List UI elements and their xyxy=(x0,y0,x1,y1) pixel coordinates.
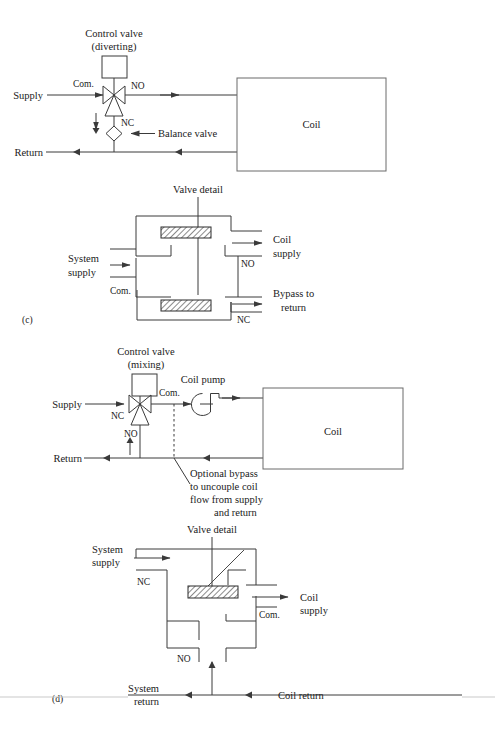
no-port-label: NO xyxy=(131,81,145,91)
bypass-flow-arrowhead xyxy=(93,128,100,134)
system-return-line1: System xyxy=(128,683,159,694)
optional-bypass-line1: Optional bypass xyxy=(190,468,258,479)
nc-label-detail-d: NC xyxy=(137,577,150,587)
coil-supply-label-line2-c: supply xyxy=(273,248,302,259)
valve-body-right-triangle xyxy=(114,86,125,104)
detail-d-lower-right-outer xyxy=(226,621,256,662)
detail-d-top-wall xyxy=(136,549,256,585)
coil-return-label: Coil return xyxy=(278,690,325,701)
control-valve-title-line2-d: (mixing) xyxy=(128,359,165,371)
return-label: Return xyxy=(14,147,43,158)
valve-plug-d xyxy=(188,586,238,598)
detail-d-lower-left-outer xyxy=(167,621,199,648)
com-label-detail-d: Com. xyxy=(259,610,280,620)
actuator-box-mixing xyxy=(132,374,157,396)
return-flow-arrow-left-d xyxy=(103,455,110,462)
valve-detail-title-d: Valve detail xyxy=(187,524,237,535)
mixing-valve-bottom-triangle xyxy=(131,404,149,425)
system-supply-label-line1-c: System xyxy=(68,253,99,264)
figure-canvas: Control valve (diverting) Supply Com. NO… xyxy=(0,0,495,730)
valve-body-left-triangle xyxy=(103,86,114,104)
optional-bypass-leader xyxy=(174,458,190,484)
nc-port-label: NC xyxy=(121,118,134,128)
no-port-label-d: NO xyxy=(124,429,138,439)
return-flow-arrow-from-coil xyxy=(175,149,182,156)
return-label-d: Return xyxy=(53,453,82,464)
bypass-label-line2-c: return xyxy=(281,302,307,313)
nc-label-detail-c: NC xyxy=(237,315,250,325)
panel-d-schematic: Control valve (mixing) Supply NC Com. NO… xyxy=(52,346,403,518)
no-label-detail-c: NO xyxy=(241,259,255,269)
return-flow-arrow-left xyxy=(73,149,80,156)
hvac-valve-piping-diagram: Control valve (diverting) Supply Com. NO… xyxy=(0,0,495,730)
balance-valve-symbol xyxy=(106,126,122,141)
coil-supply-label-line1-d: Coil xyxy=(300,592,318,603)
coil-supply-label-line1-c: Coil xyxy=(273,234,291,245)
panel-d-valve-detail: Valve detail System supply NC xyxy=(52,524,462,707)
supply-label: Supply xyxy=(13,90,44,101)
detail-d-lower-right-body xyxy=(226,600,256,621)
bottom-riser-arrowhead xyxy=(209,661,216,668)
panel-c-valve-detail: Valve detail System supply Com. Coil sup… xyxy=(22,184,314,326)
system-return-arrow xyxy=(185,692,192,699)
system-supply-label-line2-d: supply xyxy=(92,557,121,568)
valve-plug-lower-c xyxy=(161,300,211,311)
panel-d-letter: (d) xyxy=(52,694,63,705)
com-port-label-d: Com. xyxy=(159,388,180,398)
coil-return-arrow xyxy=(245,692,252,699)
system-supply-label-line2-c: supply xyxy=(68,267,97,278)
control-valve-title-line1: Control valve xyxy=(85,28,143,39)
panel-c-letter: (c) xyxy=(22,315,33,326)
actuator-box-diverting xyxy=(102,56,127,78)
mixing-valve-right-triangle xyxy=(140,395,151,413)
com-label-detail-c: Com. xyxy=(110,286,131,296)
supply-label-d: Supply xyxy=(52,399,83,410)
bypass-label-line1-c: Bypass to xyxy=(273,288,314,299)
valve-detail-title-c: Valve detail xyxy=(173,184,223,195)
control-valve-title-line1-d: Control valve xyxy=(117,346,175,357)
coil-pump-label: Coil pump xyxy=(181,374,226,385)
coil-supply-label-line2-d: supply xyxy=(300,605,329,616)
detail-d-upper-right-inlet xyxy=(228,570,246,585)
detail-upper-right-outlet-top xyxy=(231,216,262,231)
detail-lower-left-inlet xyxy=(136,287,171,297)
coil-label: Coil xyxy=(302,119,320,130)
system-return-line2: return xyxy=(134,696,160,707)
nc-port-label-d: NC xyxy=(111,411,124,421)
mixing-valve-left-triangle xyxy=(129,395,140,413)
balance-valve-label: Balance valve xyxy=(158,128,218,139)
detail-d-lower-left-body xyxy=(167,600,199,640)
coil-label-d: Coil xyxy=(324,426,342,437)
optional-bypass-line2: to uncouple coil xyxy=(190,481,258,492)
control-valve-title-line2: (diverting) xyxy=(92,41,137,53)
detail-upper-right-outlet-bottom xyxy=(225,245,262,256)
optional-bypass-line4: and return xyxy=(214,507,258,518)
system-supply-label-line1-d: System xyxy=(92,544,123,555)
valve-plug-upper-c xyxy=(161,227,211,238)
panel-c-schematic: Control valve (diverting) Supply Com. NO… xyxy=(13,28,386,171)
optional-bypass-line3: flow from supply xyxy=(190,494,264,505)
valve-body-bottom-triangle xyxy=(105,95,123,116)
com-port-label: Com. xyxy=(73,79,94,89)
return-flow-arrow-from-coil-d xyxy=(203,455,210,462)
no-label-detail-d: NO xyxy=(177,654,191,664)
